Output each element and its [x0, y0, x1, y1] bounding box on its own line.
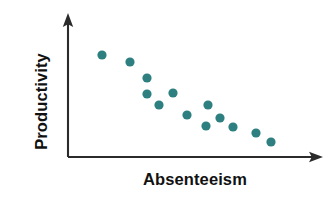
data-point — [182, 110, 191, 119]
data-point — [154, 100, 163, 109]
scatter-chart: Productivity Absenteeism — [0, 0, 335, 203]
y-axis-label: Productivity — [30, 0, 52, 203]
data-point — [168, 88, 177, 97]
data-point — [266, 137, 275, 146]
x-axis-label: Absenteeism — [68, 169, 322, 189]
data-point — [228, 122, 237, 131]
data-point — [125, 57, 134, 66]
data-point — [142, 73, 151, 82]
data-point — [201, 121, 210, 130]
data-points-group — [97, 50, 275, 146]
data-point — [215, 113, 224, 122]
data-point — [251, 128, 260, 137]
data-point — [97, 50, 106, 59]
data-point — [203, 100, 212, 109]
data-point — [142, 89, 151, 98]
